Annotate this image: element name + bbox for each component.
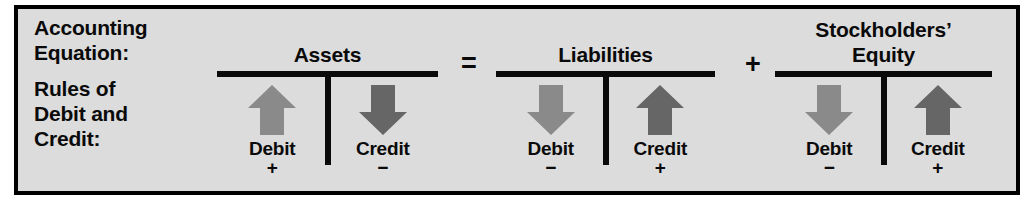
credit-sign-liabilities: + (655, 159, 666, 177)
arrow-slot-debit-stockholders-equity (804, 82, 854, 138)
rules-label-line3: Credit: (34, 126, 219, 151)
rules-label-line1: Rules of (34, 76, 219, 101)
plus-operator: + (745, 51, 761, 78)
debit-label-assets: Debit (249, 138, 296, 159)
t-account-title-assets: Assets (217, 42, 438, 67)
t-account-title-stockholders-equity-line1: Stockholders’ (775, 17, 992, 42)
arrow-up-icon (247, 84, 297, 136)
accounting-equation-figure: Accounting Equation: Rules of Debit and … (14, 5, 1020, 195)
arrow-up-icon (635, 84, 685, 136)
debit-sign-assets: + (267, 159, 278, 177)
rules-label-line2: Debit and (34, 101, 219, 126)
accounting-equation-label-line1: Accounting (34, 15, 219, 40)
arrow-up-icon (913, 84, 963, 136)
debit-sign-liabilities: − (545, 159, 556, 177)
t-bar-stockholders-equity (775, 71, 992, 77)
t-stem-stockholders-equity (881, 77, 887, 165)
t-account-stockholders-equity: Stockholders’ Equity Debit − (775, 17, 992, 177)
debit-sign-stockholders-equity: − (824, 159, 835, 177)
credit-label-stockholders-equity: Credit (911, 138, 965, 159)
debit-label-liabilities: Debit (527, 138, 574, 159)
t-account-assets: Assets Debit + Credit (217, 17, 438, 177)
arrow-down-icon (358, 84, 408, 136)
credit-sign-assets: − (377, 159, 388, 177)
arrow-slot-credit-assets (358, 82, 408, 138)
credit-label-assets: Credit (356, 138, 410, 159)
t-bar-liabilities (496, 71, 715, 77)
debit-column-liabilities: Debit − (496, 77, 606, 177)
arrow-down-icon (804, 84, 854, 136)
arrow-slot-debit-assets (247, 82, 297, 138)
debit-column-assets: Debit + (217, 77, 328, 177)
t-account-title-liabilities: Liabilities (496, 42, 715, 67)
debit-column-stockholders-equity: Debit − (775, 77, 884, 177)
credit-column-assets: Credit − (328, 77, 439, 177)
t-account-liabilities: Liabilities Debit − Credit (496, 17, 715, 177)
arrow-slot-debit-liabilities (526, 82, 576, 138)
t-account-title-stockholders-equity-line2: Equity (775, 42, 992, 67)
accounting-equation-label-line2: Equation: (34, 40, 219, 65)
arrow-down-icon (526, 84, 576, 136)
t-stem-assets (325, 77, 331, 165)
row-labels: Accounting Equation: Rules of Debit and … (34, 15, 219, 151)
credit-column-stockholders-equity: Credit + (884, 77, 993, 177)
arrow-slot-credit-liabilities (635, 82, 685, 138)
arrow-slot-credit-stockholders-equity (913, 82, 963, 138)
credit-column-liabilities: Credit + (606, 77, 716, 177)
debit-label-stockholders-equity: Debit (806, 138, 853, 159)
credit-label-liabilities: Credit (633, 138, 687, 159)
t-stem-liabilities (603, 77, 609, 165)
t-bar-assets (217, 71, 438, 77)
credit-sign-stockholders-equity: + (932, 159, 943, 177)
equals-operator: = (461, 50, 477, 77)
